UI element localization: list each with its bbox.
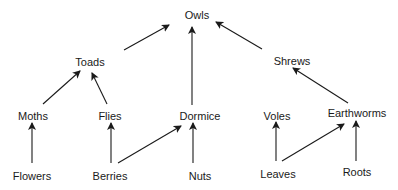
arrow-berries-to-dormice (118, 126, 181, 163)
node-nuts: Nuts (189, 171, 212, 182)
node-flowers: Flowers (13, 171, 52, 182)
node-berries: Berries (93, 171, 128, 182)
arrow-moths-to-toads (43, 71, 80, 104)
node-roots: Roots (343, 167, 372, 178)
food-web-diagram: Owls Toads Shrews Moths Flies Dormice Vo… (0, 0, 398, 190)
arrow-shrews-to-owls (216, 22, 262, 49)
node-moths: Moths (18, 111, 48, 122)
node-toads: Toads (75, 57, 104, 68)
node-dormice: Dormice (180, 111, 221, 122)
node-owls: Owls (185, 10, 209, 21)
arrow-flies-to-toads (92, 73, 107, 104)
node-voles: Voles (264, 111, 291, 122)
arrow-leaves-to-earthworms (282, 124, 344, 161)
node-leaves: Leaves (260, 169, 295, 180)
arrow-toads-to-owls (124, 25, 169, 50)
edges-layer (0, 0, 398, 190)
arrow-earthworms-to-shrews (293, 68, 348, 103)
node-earthworms: Earthworms (328, 108, 387, 119)
node-flies: Flies (98, 111, 121, 122)
node-shrews: Shrews (274, 56, 311, 67)
